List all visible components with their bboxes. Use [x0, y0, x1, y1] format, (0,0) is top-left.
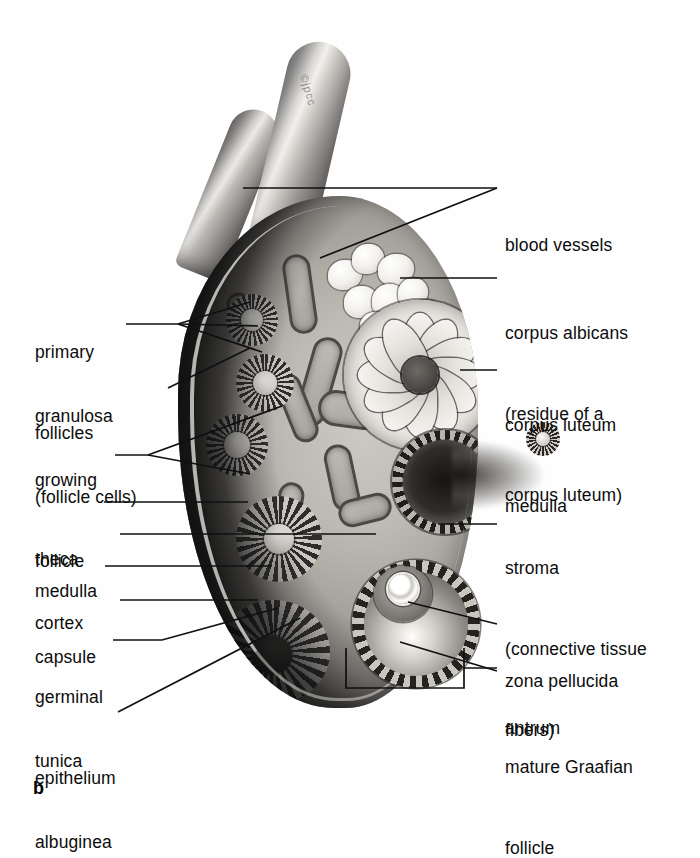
figure-letter: b	[33, 778, 44, 799]
label-line: mature Graafian	[505, 754, 633, 781]
label-line: follicle	[505, 835, 633, 858]
label-tunica-albuginea: tunica albuginea	[35, 694, 112, 858]
leader-zona-pellucida	[408, 602, 497, 624]
label-line: tunica	[35, 748, 112, 775]
leader-antrum	[400, 642, 497, 671]
leader-granulosa	[168, 348, 250, 388]
label-line: corpus luteum	[505, 412, 616, 439]
bracket-graafian-follicle	[346, 648, 464, 688]
leader-germinal-epithelium	[113, 608, 278, 640]
leader-blood-vessels-b	[320, 188, 497, 258]
label-line: stroma	[505, 555, 687, 582]
leader-tunica-albuginea	[118, 618, 300, 712]
label-mature-graafian-follicle: mature Graafian follicle	[505, 700, 633, 858]
label-line: corpus albicans	[505, 320, 628, 347]
label-line: albuginea	[35, 829, 112, 856]
label-line: blood vessels	[505, 232, 612, 259]
label-line: growing	[35, 467, 97, 494]
leader-growing-follicle-b	[148, 455, 250, 474]
leader-primary-follicles-b	[178, 324, 258, 326]
leader-growing-follicle-a	[148, 406, 282, 455]
leader-primary-follicles-a	[178, 302, 250, 324]
